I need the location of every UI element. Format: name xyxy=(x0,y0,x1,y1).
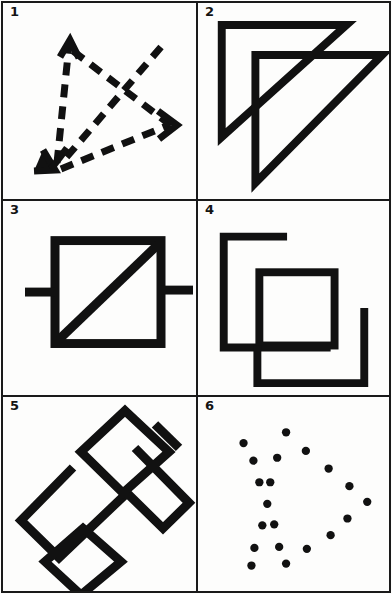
diamond-top xyxy=(81,411,169,493)
dot-3 xyxy=(249,457,257,465)
square-diagonal xyxy=(59,245,158,340)
dot-9 xyxy=(345,482,353,490)
panel-grid: 1 xyxy=(3,3,389,591)
panel-2-figure xyxy=(198,3,389,199)
dot-15 xyxy=(326,531,334,539)
dot-8 xyxy=(324,464,332,472)
panel-1-number: 1 xyxy=(10,5,19,19)
panel-5-figure xyxy=(3,397,196,591)
panel-1-figure xyxy=(3,3,196,199)
panel-3-figure xyxy=(3,201,196,395)
dot-20 xyxy=(282,559,290,567)
panel-5-number: 5 xyxy=(10,399,19,413)
panel-2[interactable]: 2 xyxy=(196,3,389,199)
dashed-line-bottom xyxy=(61,125,169,169)
figure-sheet: 1 xyxy=(0,0,392,594)
dot-4 xyxy=(273,454,281,462)
dot-19 xyxy=(247,561,255,569)
dot-5 xyxy=(302,447,310,455)
dot-14 xyxy=(343,514,351,522)
square-middle xyxy=(259,272,334,345)
panel-4[interactable]: 4 xyxy=(196,199,389,395)
bracket-upper-left xyxy=(224,237,331,348)
panel-6[interactable]: 6 xyxy=(196,395,389,591)
dot-7 xyxy=(266,478,274,486)
panel-6-figure xyxy=(198,397,389,591)
panel-2-number: 2 xyxy=(205,5,214,19)
panel-3-number: 3 xyxy=(10,203,19,217)
triangle-back xyxy=(222,25,347,137)
zigzag-band xyxy=(21,448,189,558)
dot-13 xyxy=(270,520,278,528)
dot-6 xyxy=(255,478,263,486)
panel-5[interactable]: 5 xyxy=(3,395,196,591)
dot-16 xyxy=(250,544,258,552)
dashed-line-left xyxy=(57,45,69,163)
triangle-front xyxy=(255,55,382,183)
panel-4-number: 4 xyxy=(205,203,214,217)
panel-1[interactable]: 1 xyxy=(3,3,196,199)
dot-1 xyxy=(282,428,290,436)
dot-10 xyxy=(263,500,271,508)
panel-3[interactable]: 3 xyxy=(3,199,196,395)
dot-12 xyxy=(258,521,266,529)
panel-6-number: 6 xyxy=(205,399,214,413)
dot-2 xyxy=(239,439,247,447)
dot-17 xyxy=(275,543,283,551)
dot-18 xyxy=(303,545,311,553)
dot-11 xyxy=(363,498,371,506)
panel-4-figure xyxy=(198,201,389,395)
